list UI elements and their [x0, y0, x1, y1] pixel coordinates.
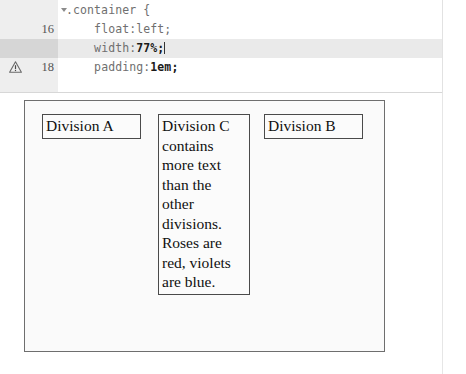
code-indent — [66, 60, 94, 74]
editor-right-divider — [442, 0, 443, 93]
gutter-line-17[interactable]: 17 — [0, 20, 58, 39]
gutter-line-18[interactable]: 18 — [0, 39, 58, 58]
warning-triangle-icon[interactable] — [9, 61, 22, 73]
code-line-18[interactable]: 18 width:77%; — [0, 39, 443, 58]
gutter-line-19[interactable]: 19 — [0, 58, 58, 77]
gutter-line-16[interactable]: 16 — [0, 1, 58, 20]
code-line-16[interactable]: 16 .container { — [0, 1, 443, 20]
code-editor-pane[interactable]: 16 .container { 17 float:left; 18 width:… — [0, 0, 443, 93]
code-content-16: .container { — [66, 1, 150, 20]
division-b-box: Division B — [264, 114, 363, 139]
code-segment: float:left; — [94, 22, 171, 36]
division-a-box: Division A — [42, 114, 141, 139]
code-line-17[interactable]: 17 float:left; — [0, 20, 443, 39]
code-value: 1em — [150, 60, 171, 74]
code-semicolon: ; — [157, 41, 164, 55]
rendered-preview-pane: Division A Division C contains more text… — [0, 93, 443, 374]
code-property: padding: — [94, 60, 150, 74]
code-property: width: — [94, 41, 136, 55]
code-value: 77% — [136, 41, 157, 55]
code-line-19[interactable]: 19 padding:1em; — [0, 58, 443, 77]
container-box: Division A Division C contains more text… — [24, 100, 385, 352]
code-content-18: width:77%; — [66, 39, 165, 58]
code-semicolon: ; — [171, 60, 178, 74]
preview-right-divider — [442, 93, 443, 374]
code-indent — [66, 22, 94, 36]
code-content-19: padding:1em; — [66, 58, 178, 77]
code-indent — [66, 41, 94, 55]
code-segment: .container { — [66, 3, 150, 17]
code-content-17: float:left; — [66, 20, 171, 39]
division-c-box: Division C contains more text than the o… — [158, 114, 250, 295]
text-caret — [164, 42, 165, 54]
